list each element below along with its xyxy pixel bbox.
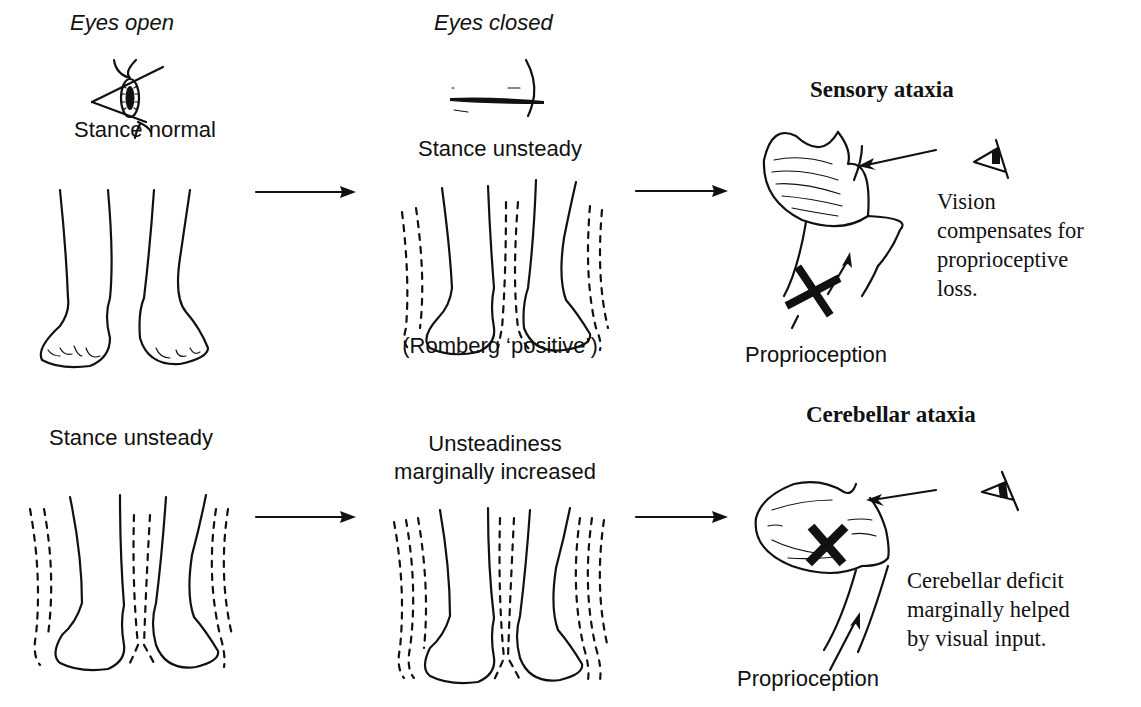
- cerebellar-explanation: Cerebellar deficit marginally helped by …: [907, 566, 1070, 653]
- sensory-ataxia-title: Sensory ataxia: [810, 77, 954, 103]
- proprioception-label: Proprioception: [737, 666, 879, 692]
- x-mark-icon: [812, 530, 842, 560]
- closed-eye-icon: [448, 58, 558, 118]
- arrow-right-icon: [256, 182, 356, 202]
- feet-icon: [30, 188, 220, 368]
- stance-unsteady-label: Stance unsteady: [36, 425, 226, 451]
- feet-icon: [390, 178, 620, 358]
- stance-unsteady-label: Stance unsteady: [400, 136, 600, 162]
- stance-normal-label: Stance normal: [60, 117, 230, 143]
- arrow-right-icon: [636, 507, 728, 527]
- eyes-closed-heading: Eyes closed: [434, 10, 553, 36]
- cerebellar-ataxia-title: Cerebellar ataxia: [806, 402, 976, 428]
- arrow-right-icon: [636, 181, 728, 201]
- arrow-right-icon: [256, 507, 356, 527]
- sensory-explanation: Vision compensates for proprioceptive lo…: [937, 187, 1084, 303]
- eyes-open-heading: Eyes open: [70, 10, 174, 36]
- unsteadiness-increased-label: Unsteadiness marginally increased: [370, 430, 620, 486]
- feet-icon: [384, 508, 614, 688]
- proprioception-label: Proprioception: [745, 342, 887, 368]
- feet-icon: [20, 495, 230, 675]
